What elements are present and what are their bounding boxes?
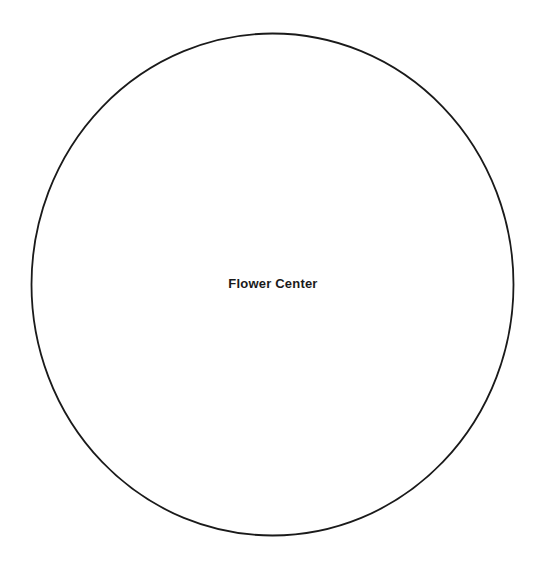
flower-center-label: Flower Center	[0, 276, 546, 292]
diagram-canvas: Flower Center	[0, 0, 546, 564]
